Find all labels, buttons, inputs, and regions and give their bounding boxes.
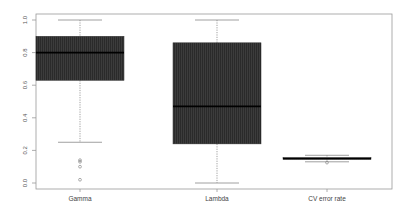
y-tick-label: 0.0	[22, 178, 28, 187]
iqr-box	[173, 43, 261, 144]
y-axis: 0.00.20.40.60.81.0	[22, 15, 36, 187]
boxes-group	[36, 20, 371, 183]
outlier-point	[79, 178, 82, 181]
box-cv-error-rate	[283, 155, 371, 164]
y-tick-label: 0.4	[22, 113, 28, 122]
y-tick-label: 0.8	[22, 48, 28, 57]
x-category-label: CV error rate	[308, 195, 346, 202]
boxplot-chart: 0.00.20.40.60.81.0 GammaLambdaCV error r…	[0, 0, 410, 213]
y-tick-label: 0.6	[22, 80, 28, 89]
y-tick-label: 0.2	[22, 146, 28, 155]
iqr-box	[36, 36, 124, 80]
y-tick-label: 1.0	[22, 15, 28, 24]
box-gamma	[36, 20, 124, 181]
x-axis: GammaLambdaCV error rate	[68, 189, 346, 202]
outlier-point	[79, 165, 82, 168]
x-category-label: Lambda	[205, 195, 229, 202]
x-category-label: Gamma	[68, 195, 92, 202]
box-lambda	[173, 20, 261, 183]
